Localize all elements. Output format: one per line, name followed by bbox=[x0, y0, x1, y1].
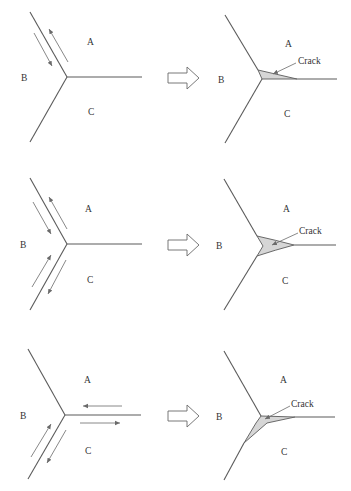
row-3-after: Crack A B C bbox=[216, 351, 335, 480]
boundary-bc bbox=[28, 415, 65, 479]
grain-label-b: B bbox=[20, 411, 26, 421]
slide-arrow-icon bbox=[49, 197, 67, 229]
slide-arrow-icon bbox=[31, 424, 51, 457]
row-2-after: Crack A B C bbox=[216, 179, 336, 310]
boundary-bc bbox=[30, 244, 67, 310]
crack-label: Crack bbox=[298, 56, 321, 66]
transition-arrow-icon bbox=[168, 405, 199, 427]
slide-arrow-icon bbox=[33, 202, 51, 234]
grain-label-a: A bbox=[85, 204, 92, 214]
grain-label-a: A bbox=[280, 375, 287, 385]
grain-label-c: C bbox=[85, 446, 91, 456]
crack-label: Crack bbox=[291, 399, 314, 409]
boundary-ab bbox=[30, 178, 67, 244]
grain-label-a: A bbox=[283, 204, 290, 214]
boundary-ab bbox=[30, 12, 67, 77]
grain-label-c: C bbox=[87, 275, 93, 285]
transition-arrow-icon bbox=[168, 67, 199, 89]
boundary-bc bbox=[30, 77, 67, 142]
transition-arrow-icon bbox=[168, 234, 199, 256]
slide-arrow-icon bbox=[48, 260, 66, 294]
grain-label-c: C bbox=[284, 109, 290, 119]
diagram-canvas: A B C Crack A B C A B C C bbox=[0, 0, 351, 491]
slide-arrow-icon bbox=[34, 33, 52, 66]
boundary-ab bbox=[225, 15, 258, 70]
grain-label-a: A bbox=[87, 37, 94, 47]
slide-arrow-icon bbox=[47, 430, 66, 463]
row-1-after: Crack A B C bbox=[218, 15, 337, 143]
row-1-before: A B C bbox=[21, 12, 142, 142]
crack-region bbox=[244, 416, 295, 443]
slide-arrow-icon bbox=[49, 29, 68, 62]
grain-label-a: A bbox=[84, 375, 91, 385]
grain-label-c: C bbox=[281, 447, 287, 457]
grain-label-b: B bbox=[218, 75, 224, 85]
boundary-ab bbox=[28, 349, 65, 415]
row-2-before: A B C bbox=[20, 178, 142, 310]
slide-arrow-icon bbox=[32, 255, 51, 287]
crack-region bbox=[258, 70, 297, 79]
crack-label: Crack bbox=[299, 226, 322, 236]
grain-label-c: C bbox=[282, 276, 288, 286]
boundary-bc bbox=[224, 256, 257, 310]
boundary-bc bbox=[224, 443, 244, 480]
row-3-before: A B C bbox=[20, 349, 141, 479]
boundary-ab bbox=[224, 351, 261, 416]
grain-label-c: C bbox=[88, 107, 94, 117]
grain-label-b: B bbox=[20, 240, 26, 250]
crack-leader-icon bbox=[273, 63, 296, 74]
boundary-bc bbox=[225, 79, 262, 143]
boundary-ab bbox=[224, 179, 257, 236]
crack-region bbox=[257, 236, 294, 256]
grain-label-a: A bbox=[285, 39, 292, 49]
grain-label-b: B bbox=[216, 412, 222, 422]
grain-label-b: B bbox=[21, 73, 27, 83]
grain-label-b: B bbox=[216, 241, 222, 251]
